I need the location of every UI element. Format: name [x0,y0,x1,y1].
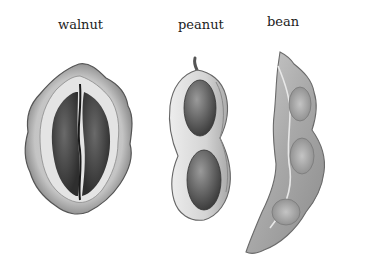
walnut-illustration [25,64,132,214]
seed-illustration [0,0,375,279]
peanut-illustration [169,58,230,220]
bean-illustration [246,52,325,253]
